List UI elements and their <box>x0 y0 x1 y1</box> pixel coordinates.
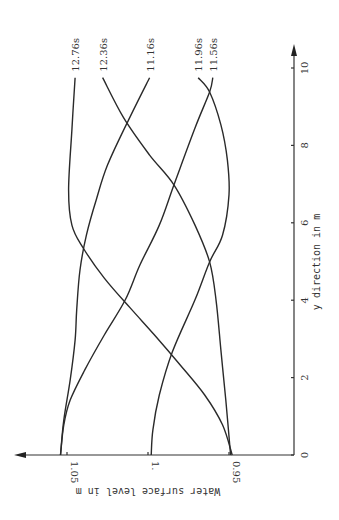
y-direction-tick-label: 6 <box>299 220 310 226</box>
tick-labels: 02468100.951.1.05 <box>69 62 310 484</box>
series-label: 12.76s <box>70 38 81 72</box>
y-direction-tick-label: 10 <box>299 62 310 75</box>
series-label: 11.56s <box>208 38 219 72</box>
series-curve-11-16s <box>61 78 150 455</box>
y-direction-tick-label: 4 <box>299 297 310 303</box>
arrow-up-icon <box>291 44 297 56</box>
water-level-chart: 12.76s12.36s11.16s11.96s11.56s 02468100.… <box>0 0 339 520</box>
series-labels: 12.76s12.36s11.16s11.96s11.56s <box>70 38 219 72</box>
series-label: 11.96s <box>193 38 204 72</box>
series-curve-11-96s <box>151 78 229 455</box>
y-axis-title: Water surface level in m <box>76 486 221 497</box>
water-level-tick-label: 1.05 <box>69 461 80 483</box>
x-axis-title: y direction in m <box>311 214 322 310</box>
curves <box>61 78 233 455</box>
y-direction-tick-label: 0 <box>299 452 310 458</box>
arrow-left-icon <box>14 452 26 458</box>
series-label: 11.16s <box>145 38 156 72</box>
series-curve-11-56s <box>61 78 213 455</box>
y-direction-tick-label: 8 <box>299 142 310 148</box>
water-level-tick-label: 0.95 <box>231 461 242 483</box>
axes <box>14 44 297 458</box>
y-direction-tick-label: 2 <box>299 374 310 380</box>
water-level-tick-label: 1. <box>150 461 161 471</box>
series-label: 12.36s <box>98 38 109 72</box>
